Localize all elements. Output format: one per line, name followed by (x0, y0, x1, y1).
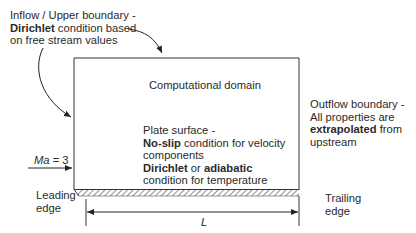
leading-edge-label: Leading edge (36, 189, 76, 214)
inflow-dirichlet-bold: Dirichlet (10, 22, 55, 34)
trailing-edge-label: Trailing edge (325, 192, 361, 217)
inflow-boundary-label: Inflow / Upper boundary - Dirichlet cond… (10, 9, 136, 47)
plate-line1: Plate surface - (143, 124, 285, 137)
outflow-line3-rest: from (377, 123, 402, 135)
mach-value: = 3 (50, 154, 69, 166)
trailing-edge-line2: edge (325, 205, 361, 218)
outflow-line1: Outflow boundary - (310, 98, 405, 111)
inflow-line2-rest: condition based (55, 22, 136, 34)
length-dimension (86, 196, 299, 226)
leading-edge-line1: Leading (36, 189, 76, 202)
plate-line2-rest: condition for velocity (181, 137, 285, 149)
computational-domain-label: Computational domain (149, 79, 261, 92)
plate-line4-mid: or (188, 162, 204, 174)
plate-noslip-bold: No-slip (143, 137, 181, 149)
plate-line2: No-slip condition for velocity (143, 137, 285, 150)
inflow-line3: on free stream values (10, 34, 136, 47)
outflow-line2: All properties are (310, 111, 405, 124)
inflow-line2: Dirichlet condition based (10, 22, 136, 35)
plate-dirichlet-bold: Dirichlet (143, 162, 188, 174)
plate-surface-label: Plate surface - No-slip condition for ve… (143, 124, 285, 187)
leading-edge-line2: edge (36, 202, 76, 215)
plate-line3: components (143, 149, 285, 162)
length-label: L (201, 216, 207, 229)
outflow-line4: upstream (310, 136, 405, 149)
plate-line5: condition for temperature (143, 174, 285, 187)
inflow-line1: Inflow / Upper boundary - (10, 9, 136, 22)
outflow-line3: extrapolated from (310, 123, 405, 136)
outflow-extrapolated-bold: extrapolated (310, 123, 377, 135)
plate-surface (74, 190, 299, 197)
outflow-boundary-label: Outflow boundary - All properties are ex… (310, 98, 405, 148)
plate-line4: Dirichlet or adiabatic (143, 162, 285, 175)
mach-number-label: Ma = 3 (34, 154, 69, 167)
mach-symbol: Ma (34, 154, 50, 166)
inflow-boundary-arrow (39, 48, 71, 117)
plate-adiabatic-bold: adiabatic (204, 162, 253, 174)
trailing-edge-line1: Trailing (325, 192, 361, 205)
